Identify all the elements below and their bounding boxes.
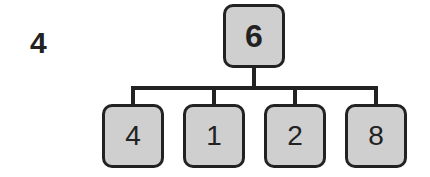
child-node-2: 1 xyxy=(183,104,245,168)
child-node-1: 4 xyxy=(102,104,164,168)
root-value: 6 xyxy=(245,18,263,55)
child-node-4: 8 xyxy=(345,104,407,168)
child-value: 2 xyxy=(287,120,303,152)
root-node: 6 xyxy=(223,4,285,68)
child-node-3: 2 xyxy=(264,104,326,168)
child-value: 4 xyxy=(125,120,141,152)
child-value: 1 xyxy=(206,120,222,152)
child-value: 8 xyxy=(368,120,384,152)
